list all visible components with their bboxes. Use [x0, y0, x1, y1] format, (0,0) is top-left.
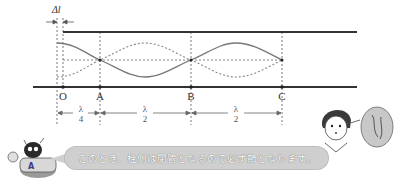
svg-text:A: A — [28, 162, 35, 171]
segment-label-half-lambda-2: λ 2 — [234, 104, 239, 124]
point-label-c: C — [278, 90, 285, 102]
point-label-b: B — [187, 90, 194, 102]
delta-l-arrows — [46, 20, 74, 24]
delta-l-label: Δl — [52, 4, 61, 15]
point-label-a: A — [96, 90, 104, 102]
speech-bubble-text: このとき、栓側は閉管となるので必ず節となります。 — [65, 147, 328, 169]
segment-label-half-lambda-1: λ 2 — [143, 104, 148, 124]
standing-wave-diagram: A Δl O A B C λ 4 λ 2 λ 2 — [0, 0, 403, 184]
robot-character-icon: A — [8, 138, 56, 178]
dimension-arrows — [58, 111, 281, 115]
girl-character-icon — [322, 110, 360, 152]
speech-bubble: このとき、栓側は閉管となるので必ず節となります。 — [65, 147, 328, 169]
vertical-guides — [57, 18, 282, 125]
thought-cloud-icon — [361, 107, 393, 147]
segment-label-quarter-lambda: λ 4 — [79, 104, 84, 124]
point-label-o: O — [59, 90, 67, 102]
